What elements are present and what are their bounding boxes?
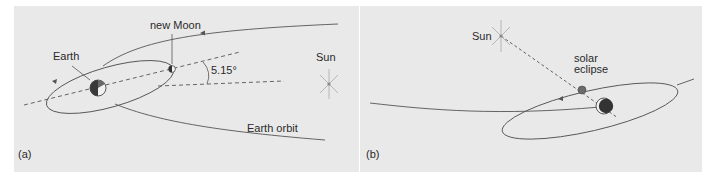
moon-orbit-arrow-icon <box>52 79 57 84</box>
earth-orbit-b-right <box>677 79 694 85</box>
moon-eclipse-icon <box>578 86 586 94</box>
sun-icon-b <box>492 20 510 52</box>
solar-eclipse-label-2: eclipse <box>574 63 608 76</box>
sun-label-b: Sun <box>472 30 492 43</box>
sun-label-a: Sun <box>316 51 336 64</box>
moon-orbit-b <box>498 71 682 150</box>
earth-label: Earth <box>53 50 79 63</box>
new-moon-label: new Moon <box>150 19 201 32</box>
earth-orbit-upper <box>103 24 338 66</box>
sun-icon-a <box>320 69 338 99</box>
angle-label: 5.15° <box>211 64 237 77</box>
earth-orbit-b <box>370 103 600 112</box>
angle-arc <box>203 62 209 84</box>
panel-b-label: (b) <box>366 148 379 161</box>
panel-b-drawing <box>370 20 694 151</box>
diagram-canvas <box>0 0 713 179</box>
panel-a-label: (a) <box>18 148 31 161</box>
ecliptic-line <box>158 81 284 86</box>
earth-orbit-label: Earth orbit <box>247 122 298 135</box>
